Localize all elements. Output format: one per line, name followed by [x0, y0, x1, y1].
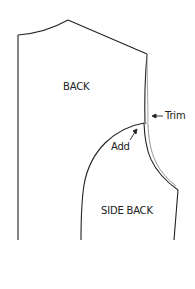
back-label: BACK — [63, 81, 89, 92]
trim-label: Trim — [165, 110, 185, 121]
add-arrow-icon — [130, 129, 137, 140]
add-label: Add — [111, 141, 130, 152]
trim-arrow-icon — [152, 114, 163, 118]
side-back-label: SIDE BACK — [101, 205, 153, 216]
pattern-diagram — [0, 0, 195, 289]
